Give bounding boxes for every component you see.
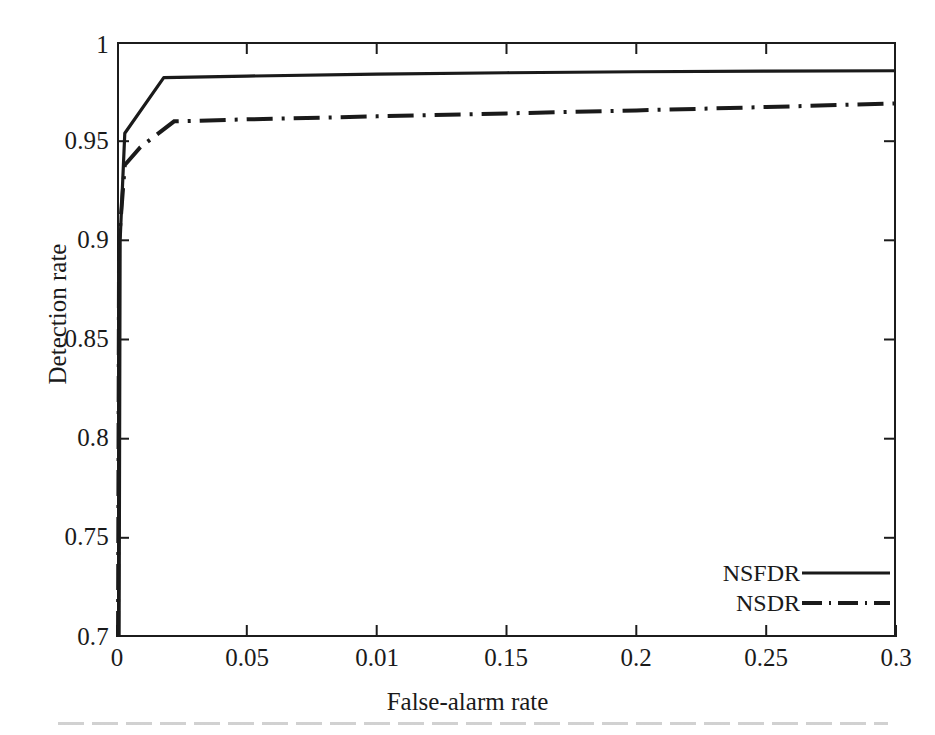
x-tick-label: 0.3 (880, 645, 911, 670)
x-tick-label: 0.05 (225, 645, 269, 670)
legend-line-sample-dashdot (802, 596, 890, 610)
chart-legend: NSFDR NSDR (690, 558, 890, 618)
x-axis-tick-labels: 0 0.05 0.01 0.15 0.2 0.25 0.3 (0, 645, 935, 685)
x-axis-title: False-alarm rate (0, 688, 935, 716)
y-tick-label: 0.8 (77, 425, 109, 450)
x-axis-ticks (117, 42, 896, 637)
plot-area: NSFDR NSDR (117, 42, 896, 637)
x-tick-label: 0.2 (620, 645, 651, 670)
scan-artifact-line (58, 722, 888, 725)
y-tick-label: 0.95 (64, 128, 109, 153)
series-line-nsdr (118, 103, 896, 637)
y-axis-title-container: Detection rate (18, 0, 58, 680)
legend-item-nsdr: NSDR (690, 588, 890, 618)
legend-label-nsfdr: NSFDR (723, 560, 802, 587)
y-tick-label: 0.75 (64, 524, 109, 549)
y-tick-label: 1 (96, 32, 109, 57)
y-tick-label: 0.9 (77, 227, 109, 252)
roc-figure: 1 0.95 0.9 0.85 0.8 0.75 0.7 Detection r… (0, 0, 935, 735)
y-axis-title: Detection rate (44, 164, 72, 464)
y-axis-ticks (117, 141, 896, 538)
legend-label-nsdr: NSDR (736, 590, 802, 617)
legend-line-sample-solid (802, 566, 890, 580)
x-tick-label: 0.01 (355, 645, 399, 670)
series-line-nsfdr (119, 71, 896, 637)
x-tick-label: 0 (111, 645, 124, 670)
x-tick-label: 0.15 (484, 645, 528, 670)
x-tick-label: 0.25 (744, 645, 788, 670)
plot-canvas (117, 42, 896, 637)
legend-item-nsfdr: NSFDR (690, 558, 890, 588)
